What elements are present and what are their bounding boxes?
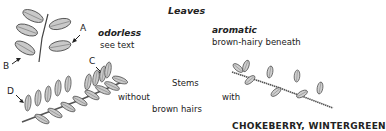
marker-a: A [80,24,86,33]
marker-b: B [3,62,9,71]
brown-hairs-label: brown hairs [152,105,202,114]
aromatic-label: aromatic [212,26,257,35]
with-label: with [222,93,240,102]
cut-off-heading: CHOKEBERRY, WINTERGREEN [232,122,386,131]
arrow-a-icon [72,35,80,43]
hairy-stem [232,59,333,108]
marker-c: C [89,57,95,66]
arrow-b-icon [12,58,21,64]
arrow-d-icon [16,95,24,103]
stems-label: Stems [172,79,199,88]
diagram-title: Leaves [168,6,205,16]
simple-leaf-branch [13,7,72,62]
marker-d: D [7,87,14,96]
brown-hairy-note: brown-hairy beneath [212,38,301,47]
odorless-label: odorless [98,29,141,38]
without-label: without [118,93,150,102]
compound-leaf-stem [22,62,129,126]
see-text-note: see text [100,41,134,50]
